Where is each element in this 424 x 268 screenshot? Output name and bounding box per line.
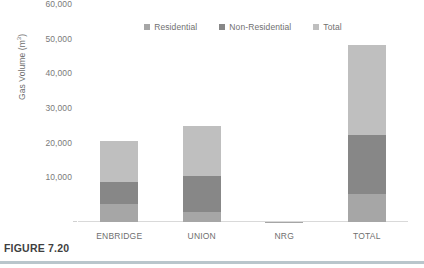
bar-group-total: TOTAL	[326, 14, 409, 222]
y-axis-tick-60000: 60,000	[45, 0, 72, 9]
y-axis-title-exponent: 3	[16, 37, 22, 40]
y-axis-title-paren: )	[17, 34, 27, 37]
bar-segment-non-residential[interactable]	[100, 182, 138, 204]
bar-segment-non-residential[interactable]	[348, 135, 386, 194]
y-axis-title: Gas Volume (m3)	[16, 84, 27, 100]
plot-area: 10,00020,00030,00040,00050,00060,000 ENB…	[78, 14, 408, 222]
y-axis-zero-tick	[73, 221, 77, 222]
y-axis-tick-30000: 30,000	[45, 103, 72, 113]
bar-stack[interactable]	[100, 141, 138, 222]
chart-canvas: Gas Volume (m3) ResidentialNon-Residenti…	[0, 0, 424, 240]
figure-caption-block: FIGURE 7.20	[0, 240, 424, 268]
bar-series-group: ENBRIDGEUNIONNRGTOTAL	[78, 14, 408, 222]
bar-group-enbridge: ENBRIDGE	[78, 14, 161, 222]
figure-caption-label: FIGURE 7.20	[4, 242, 69, 254]
caption-divider	[0, 261, 424, 264]
y-axis-tick-20000: 20,000	[45, 138, 72, 148]
bar-segment-residential[interactable]	[183, 212, 221, 222]
bar-group-union: UNION	[161, 14, 244, 222]
y-axis-tick-50000: 50,000	[45, 34, 72, 44]
bar-group-nrg: NRG	[243, 14, 326, 222]
y-axis-title-text: Gas Volume (m	[17, 40, 27, 100]
bar-segment-non-residential[interactable]	[183, 176, 221, 212]
bar-stack[interactable]	[348, 45, 386, 222]
y-axis-tick-40000: 40,000	[45, 68, 72, 78]
bar-stack[interactable]	[183, 126, 221, 222]
bar-segment-total[interactable]	[348, 45, 386, 134]
figure-container: Gas Volume (m3) ResidentialNon-Residenti…	[0, 0, 424, 268]
bar-segment-residential[interactable]	[100, 204, 138, 222]
y-axis-tick-10000: 10,000	[45, 172, 72, 182]
bar-segment-total[interactable]	[183, 126, 221, 176]
bar-segment-total[interactable]	[100, 141, 138, 182]
bar-segment-residential[interactable]	[348, 194, 386, 222]
